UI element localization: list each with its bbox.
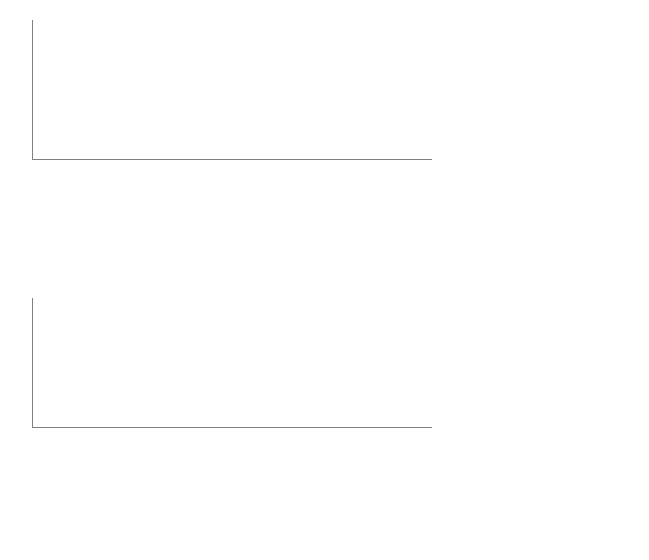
chart-bottom-bars [33, 298, 432, 427]
chart-top-y-axis-labels [0, 20, 30, 160]
chart-top-plot-area [32, 20, 432, 160]
chart-bottom [0, 288, 649, 538]
figure-page [0, 0, 649, 560]
chart-top-bars [33, 20, 432, 159]
chart-bottom-plot-area [32, 298, 432, 428]
chart-bottom-y-axis-labels [0, 298, 30, 428]
chart-top [0, 8, 649, 258]
